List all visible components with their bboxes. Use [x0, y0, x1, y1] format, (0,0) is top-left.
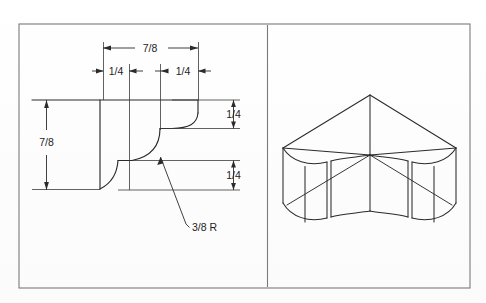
- extension-lines: [32, 42, 240, 190]
- frame-rectangle: [19, 24, 470, 288]
- pictorial-top-faces: [283, 95, 456, 155]
- right-outer-lobe-back-rim: [412, 148, 456, 164]
- dimension-overall-width: 7/8: [103, 42, 198, 54]
- ridge-right-upper: [370, 95, 456, 148]
- radius-note-label: 3/8 R: [192, 221, 218, 233]
- radius-leader-elbow: [186, 224, 190, 228]
- dimension-right-step-width: 1/4: [155, 65, 211, 77]
- left-outer-lobe-back-rim: [283, 148, 327, 164]
- left-panel-orthographic-view: 7/8 1/4 1/4 7/8: [32, 42, 241, 234]
- arrowhead-left-step-right: [129, 69, 137, 74]
- profile-large-radius: [132, 129, 160, 161]
- dim-label-left-step-width: 1/4: [109, 65, 124, 77]
- profile-outline: [32, 100, 198, 189]
- pictorial-left-wing: [283, 148, 370, 222]
- arrowhead-upper-step-bottom: [231, 122, 236, 129]
- arrowhead-right-step-right: [198, 69, 206, 74]
- arrowhead-overall-width-right: [190, 46, 198, 51]
- mitre-line-left: [287, 155, 370, 205]
- radius-leader-line: [161, 157, 187, 224]
- dim-label-lower-step-height: 1/4: [226, 169, 241, 181]
- dimension-overall-height: 7/8: [39, 100, 54, 190]
- dimension-left-step-width: 1/4: [92, 65, 143, 77]
- dimension-lower-step-height: 1/4: [226, 161, 241, 191]
- right-panel-pictorial-view: [283, 95, 456, 222]
- top-face-left-front: [283, 148, 370, 155]
- pictorial-right-wing: [370, 148, 456, 222]
- profile-small-fillet: [172, 113, 198, 129]
- projection-lines: [130, 64, 161, 190]
- arrowhead-left-step-left: [96, 69, 104, 74]
- right-inner-lobe-bottom-curve: [370, 211, 408, 217]
- arrowhead-overall-height-bottom: [44, 182, 49, 190]
- dim-label-right-step-width: 1/4: [176, 65, 191, 77]
- arrowhead-overall-height-top: [44, 100, 49, 108]
- top-face-right-front: [370, 148, 456, 155]
- dimension-upper-step-height: 1/4: [226, 100, 241, 129]
- arrowhead-right-step-left: [161, 69, 169, 74]
- drawing-border: [19, 24, 470, 288]
- left-inner-lobe-bottom-curve: [331, 211, 370, 217]
- dim-label-overall-width: 7/8: [143, 42, 158, 54]
- arrowhead-upper-step-top: [231, 100, 236, 107]
- dim-label-overall-height: 7/8: [39, 136, 54, 148]
- arrowhead-lower-step-top: [231, 161, 236, 168]
- arrowhead-overall-width-left: [103, 46, 111, 51]
- arrowhead-lower-step-bottom: [231, 183, 236, 190]
- ridge-left-upper: [283, 95, 370, 148]
- dim-label-upper-step-height: 1/4: [226, 108, 241, 120]
- radius-note-callout: 3/8 R: [157, 157, 217, 233]
- mitre-line-right: [370, 155, 452, 205]
- profile-lower-fillet: [100, 161, 118, 190]
- technical-drawing-sheet: 7/8 1/4 1/4 7/8: [0, 0, 486, 303]
